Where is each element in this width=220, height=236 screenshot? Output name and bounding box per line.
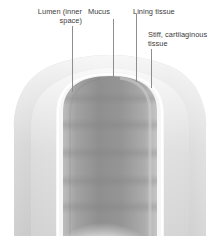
leader-line-lumen: [72, 26, 73, 92]
leader-line-lining-tissue: [136, 14, 137, 82]
label-lining-tissue: Lining tissue: [133, 7, 203, 16]
leader-line-mucus: [113, 19, 114, 78]
label-lumen: Lumen (inner space): [10, 7, 82, 25]
airway-cross-section-figure: Lumen (inner space) Mucus Lining tissue …: [0, 0, 220, 236]
leader-line-cartilage: [151, 49, 152, 88]
label-mucus: Mucus: [88, 7, 134, 16]
label-cartilaginous-tissue: Stiff, cartilaginous tissue: [148, 30, 218, 48]
